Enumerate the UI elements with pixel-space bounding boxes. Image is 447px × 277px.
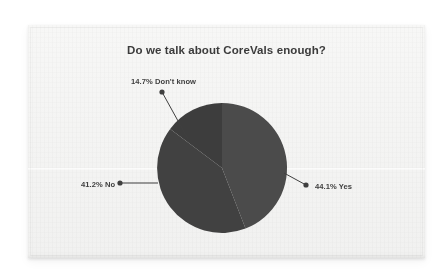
leader-dot-no xyxy=(117,180,122,185)
leader-dot-yes xyxy=(303,182,308,187)
pie-label-yes: 44.1% Yes xyxy=(315,182,352,191)
pie-svg xyxy=(28,25,425,258)
leader-line-yes xyxy=(284,173,306,185)
chart-card: Do we talk about CoreVals enough? xyxy=(28,25,425,258)
pie-label-no: 41.2% No xyxy=(81,180,115,189)
leader-dot-dont-know xyxy=(159,89,164,94)
pie-chart: 14.7% Don't know 41.2% No 44.1% Yes xyxy=(28,25,425,258)
pie-label-dont-know: 14.7% Don't know xyxy=(131,77,196,86)
screenshot-stage: Do we talk about CoreVals enough? xyxy=(0,0,447,277)
